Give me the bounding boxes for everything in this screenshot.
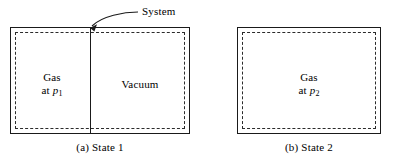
gas-pressure-prefix: at — [42, 84, 53, 96]
system-callout-label: System — [142, 5, 176, 17]
gas-label-line1: Gas — [18, 71, 86, 84]
figure-container: Gas at p1 Vacuum (a) State 1 Gas at p2 (… — [0, 0, 403, 165]
curved-arrow-icon — [92, 12, 138, 26]
vacuum-label-line1: Vacuum — [96, 78, 184, 91]
gas-pressure-prefix: at — [299, 84, 310, 96]
caption-state-2: (b) State 2 — [237, 141, 381, 153]
partition-divider — [90, 27, 91, 134]
gas-pressure-subscript: 2 — [316, 89, 320, 98]
gas-pressure-subscript: 1 — [59, 89, 63, 98]
gas-label-line2: at p2 — [265, 84, 353, 100]
gas-region-label-state-1: Gas at p1 — [18, 71, 86, 100]
gas-label-line2: at p1 — [18, 84, 86, 100]
vacuum-region-label: Vacuum — [96, 78, 184, 91]
gas-label-line1: Gas — [265, 71, 353, 84]
caption-state-1: (a) State 1 — [10, 141, 190, 153]
gas-region-label-state-2: Gas at p2 — [265, 71, 353, 100]
